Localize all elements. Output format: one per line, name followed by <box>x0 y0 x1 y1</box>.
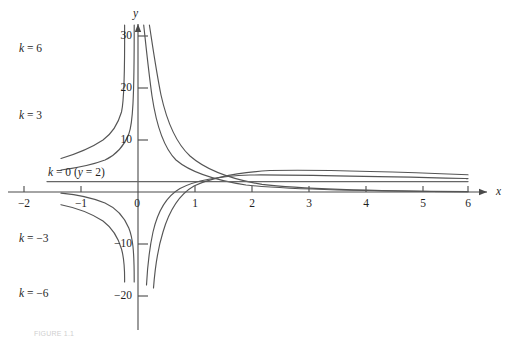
curve-label-k6-value: = 6 <box>24 42 42 54</box>
x-tick-label-2: 2 <box>243 198 261 210</box>
curve-label-k0-tail: = 2) <box>83 166 105 178</box>
y-tick-label-20: 20 <box>104 82 132 94</box>
curve-k6-right <box>149 25 468 192</box>
y-tick-label-30: 30 <box>104 30 132 42</box>
x-tick-label-6: 6 <box>459 198 477 210</box>
y-tick-label-10: 10 <box>104 134 132 146</box>
curve-label-kneg6: k = −6 <box>19 288 49 300</box>
x-tick-label-1: 1 <box>186 198 204 210</box>
curve-label-k0-value: = 0 ( <box>53 166 78 178</box>
y-tick-label--20: −20 <box>100 290 132 302</box>
curve-label-k0: k = 0 (y = 2) <box>48 167 105 179</box>
x-axis-arrowhead <box>479 189 487 195</box>
curve-label-k3-value: = 3 <box>24 109 42 121</box>
y-axis-label: y <box>133 8 138 20</box>
curve-label-kneg6-value: = −6 <box>24 287 48 299</box>
y-axis-ticks <box>138 36 148 296</box>
x-tick-label-5: 5 <box>414 198 432 210</box>
figure-container: y x −2 −1 0 1 2 3 4 5 6 30 20 10 −10 −20… <box>0 0 515 340</box>
curve-k3-right <box>144 25 468 192</box>
y-axis-arrowhead <box>135 24 141 32</box>
curve-label-k6: k = 6 <box>19 43 42 55</box>
x-tick-label-0: 0 <box>128 198 146 210</box>
x-tick-label-3: 3 <box>300 198 318 210</box>
y-tick-label--10: −10 <box>100 238 132 250</box>
figure-caption: FIGURE 1.1 <box>34 330 74 337</box>
curve-label-kneg3-value: = −3 <box>24 232 48 244</box>
curve-label-kneg3: k = −3 <box>19 233 49 245</box>
x-tick-label-4: 4 <box>357 198 375 210</box>
curve-label-k3: k = 3 <box>19 110 42 122</box>
x-tick-label--2: −2 <box>12 198 36 210</box>
x-tick-label--1: −1 <box>69 198 93 210</box>
x-axis-label: x <box>496 186 501 198</box>
